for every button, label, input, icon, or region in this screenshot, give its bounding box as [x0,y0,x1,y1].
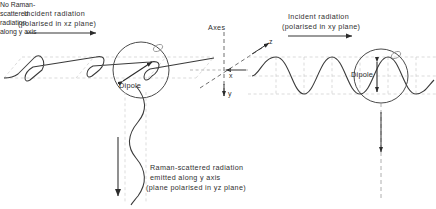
axis-z-arrow-icon [252,43,269,54]
axis-z-label: z [269,38,273,45]
axes-caption: Axes [208,23,225,32]
axis-y-label: y [228,90,232,97]
incident-wave-right [252,57,434,94]
incident-left-caption-line1: Incident radiation [24,9,85,18]
scattered-caption-line2: emitted along y axis [150,173,221,182]
dipole-label-left: Dipole [119,81,141,90]
dipole-label-right: Dipole [351,70,373,79]
incident-right-caption-line1: Incident radiation [288,12,349,21]
raman-scattering-diagram: Incident radiation (polarised in xz plan… [0,0,436,209]
axis-x-label: x [229,72,233,79]
incident-right-caption-line2: (polarised in xy plane) [282,22,360,31]
scattered-caption-line1: Raman-scattered radiation [150,163,243,172]
incident-wave-left [4,56,214,81]
incident-left-caption-line2: (polarised in xz plane) [18,19,96,28]
scattered-wave [129,86,144,205]
axes-group [190,32,269,96]
scattered-caption-line3: (plane polarised in yz plane) [146,183,246,192]
dipole-arrow-left-icon [123,62,152,81]
